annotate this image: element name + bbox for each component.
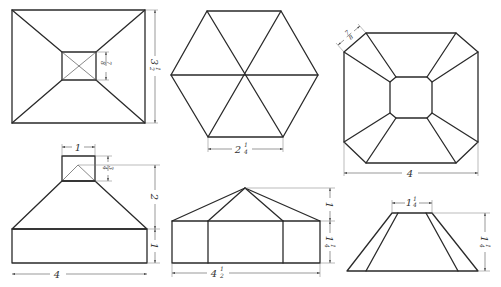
dim-edge: 2 1 4 <box>234 141 248 155</box>
figure-octagon-top: 7 8 4 <box>336 24 478 179</box>
svg-text:4: 4 <box>479 243 486 248</box>
svg-text:1: 1 <box>244 141 248 148</box>
figure-octagon-front: 1 1 4 1 1 4 <box>347 195 492 271</box>
dim-width: 4 <box>406 168 413 179</box>
svg-text:3: 3 <box>149 59 160 65</box>
svg-text:8: 8 <box>347 33 355 41</box>
svg-text:1: 1 <box>220 265 224 272</box>
svg-text:2: 2 <box>149 66 156 71</box>
technical-drawing: 7 8 3 1 2 2 1 4 <box>0 0 501 287</box>
dim-inner-height: 7 8 <box>100 60 113 66</box>
figure-rect-pyramid-top: 7 8 3 1 2 <box>12 10 162 123</box>
svg-text:1: 1 <box>149 243 160 249</box>
svg-text:4: 4 <box>210 268 217 279</box>
figure-hexagon-top: 2 1 4 <box>171 11 318 155</box>
dim-top-height: 3 4 <box>102 165 115 171</box>
figure-hexagon-front: 1 1 1 4 4 1 2 <box>172 188 337 279</box>
svg-text:4: 4 <box>102 165 109 170</box>
svg-text:2: 2 <box>219 272 224 279</box>
dim-base-height: 1 <box>149 243 160 249</box>
svg-text:1: 1 <box>406 197 412 208</box>
dim-slope-height: 2 <box>149 193 160 200</box>
svg-text:1: 1 <box>324 202 335 208</box>
dim-base-width: 4 <box>53 269 60 280</box>
dim-top-width-oct: 1 1 4 <box>406 195 417 208</box>
dim-wall-height: 1 1 4 <box>324 236 337 248</box>
svg-text:8: 8 <box>100 61 107 65</box>
dim-front-width: 4 1 2 <box>210 265 224 279</box>
svg-text:2: 2 <box>149 193 160 200</box>
dim-chamfer: 7 8 <box>342 28 355 42</box>
svg-text:4: 4 <box>324 243 331 248</box>
svg-text:2: 2 <box>234 144 241 155</box>
figure-rect-pyramid-front: 1 3 4 2 1 4 <box>12 142 160 280</box>
dim-roof-height: 1 <box>324 202 335 208</box>
svg-text:1: 1 <box>479 236 490 242</box>
svg-text:4: 4 <box>243 148 248 155</box>
svg-text:4: 4 <box>412 201 417 208</box>
dim-top-width: 1 <box>75 142 81 153</box>
dim-height-oct: 1 1 4 <box>479 236 492 248</box>
dim-outer-height: 3 1 2 <box>149 59 162 71</box>
svg-text:1: 1 <box>324 236 335 242</box>
